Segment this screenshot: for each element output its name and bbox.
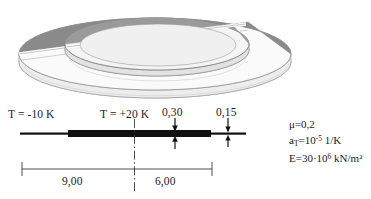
engineering-figure: T = -10 K T = +20 K 0,30 0,15 9,00 6,00 … [0, 0, 371, 199]
label-temperature-right: T = +20 K [100, 109, 149, 121]
beam-thick-middle [68, 130, 211, 137]
label-span-left: 9,00 [62, 176, 83, 188]
property-poisson-text: μ=0,2 [289, 118, 315, 130]
label-thickness-outer: 0,15 [216, 107, 237, 119]
property-alpha-eq: =10 [298, 134, 315, 146]
material-properties: μ=0,2 aT=10-5 1/K E=30·106 kN/m² [289, 118, 371, 166]
beam-thin-left [20, 133, 69, 135]
beam-thin-right [210, 133, 246, 135]
slab-svg [0, 0, 310, 106]
property-e-symbol: E [289, 152, 296, 164]
property-e-eq: =30·10 [296, 152, 328, 164]
property-thermal-expansion: aT=10-5 1/K [289, 132, 371, 150]
property-poisson: μ=0,2 [289, 118, 371, 132]
label-temperature-left: T = -10 K [8, 109, 54, 121]
property-alpha-unit: 1/K [322, 134, 341, 146]
property-e-unit: kN/m² [331, 152, 362, 164]
label-span-right: 6,00 [155, 176, 176, 188]
slab-center-depression [80, 24, 236, 66]
label-thickness-inner: 0,30 [162, 107, 183, 119]
circular-slab-3d [0, 0, 310, 106]
property-youngs-modulus: E=30·106 kN/m² [289, 150, 371, 166]
